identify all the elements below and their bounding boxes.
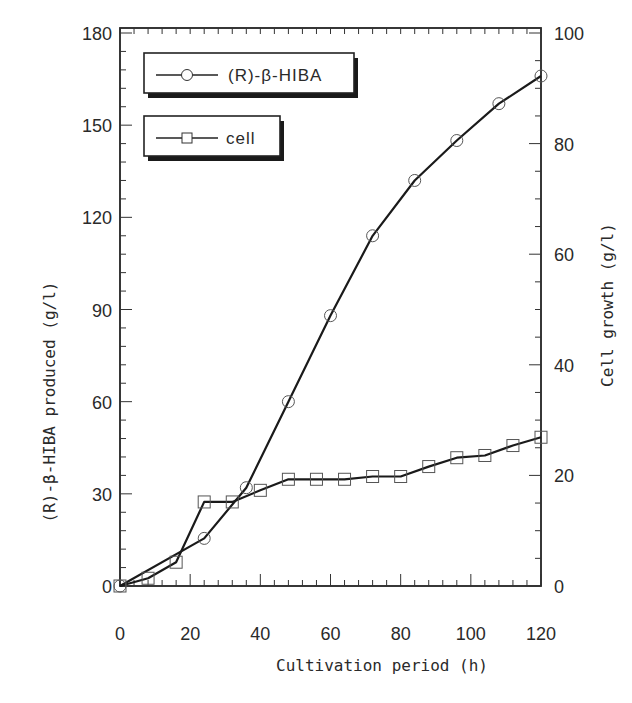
legend-hiba: (R)-β-HIBA xyxy=(144,53,358,98)
legend-hiba-label: (R)-β-HIBA xyxy=(228,66,322,85)
y-left-tick-label: 0 xyxy=(102,577,112,597)
series-line-cell xyxy=(120,437,541,586)
right-axis-title: Cell growth (g/l) xyxy=(598,223,617,387)
y-right-tick-label: 60 xyxy=(554,245,574,265)
legend-cell-box xyxy=(144,116,280,156)
dual-axis-line-chart: 0204060801001200306090120150180020406080… xyxy=(0,0,632,703)
circle-marker-icon xyxy=(182,70,193,81)
y-right-tick-label: 40 xyxy=(554,356,574,376)
legend-cell: cell xyxy=(144,116,284,161)
axis-ticks xyxy=(120,28,541,586)
legend-cell-label: cell xyxy=(226,129,256,148)
x-tick-label: 80 xyxy=(391,624,411,644)
x-tick-label: 0 xyxy=(115,624,125,644)
x-axis-title: Cultivation period (h) xyxy=(276,656,488,675)
y-left-tick-label: 180 xyxy=(82,24,112,44)
x-tick-label: 100 xyxy=(456,624,486,644)
square-marker-icon xyxy=(182,133,192,143)
y-right-tick-label: 100 xyxy=(554,24,584,44)
x-tick-label: 40 xyxy=(250,624,270,644)
y-right-tick-label: 0 xyxy=(554,577,564,597)
y-right-tick-label: 20 xyxy=(554,466,574,486)
x-tick-label: 20 xyxy=(180,624,200,644)
y-left-tick-label: 30 xyxy=(92,485,112,505)
y-left-tick-label: 120 xyxy=(82,208,112,228)
y-left-tick-label: 60 xyxy=(92,393,112,413)
plot-frame xyxy=(120,28,541,586)
x-tick-label: 60 xyxy=(320,624,340,644)
y-left-tick-label: 90 xyxy=(92,301,112,321)
x-tick-label: 120 xyxy=(526,624,556,644)
y-right-tick-label: 80 xyxy=(554,135,574,155)
left-axis-title: (R)-β-HIBA produced (g/l) xyxy=(40,282,59,523)
y-left-tick-label: 150 xyxy=(82,116,112,136)
plot-border xyxy=(120,28,541,586)
